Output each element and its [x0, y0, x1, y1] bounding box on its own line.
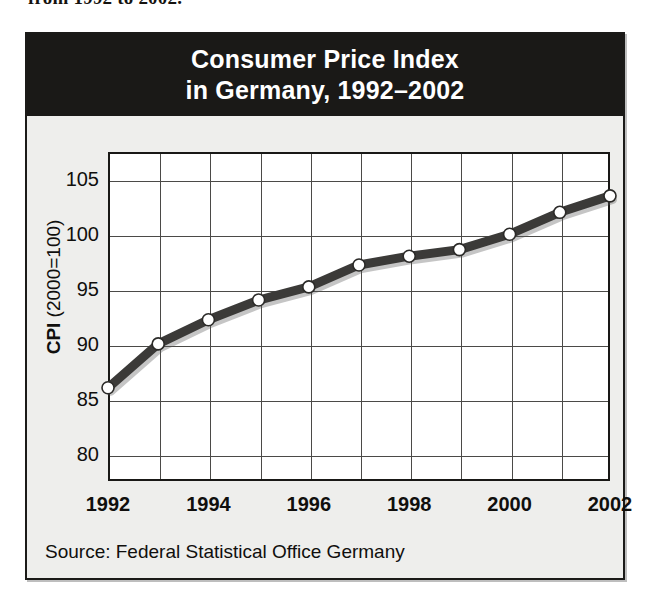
data-point-marker: [202, 314, 214, 326]
y-axis-tick-label: 100: [39, 223, 99, 246]
x-axis-tick-label: 1994: [186, 493, 231, 516]
x-axis-tick-label: 1998: [387, 493, 432, 516]
y-axis-tick-label: 85: [39, 387, 99, 410]
source-strip: Source: Federal Statistical Office Germa…: [27, 526, 623, 578]
data-point-marker: [554, 206, 566, 218]
data-point-marker: [453, 244, 465, 256]
x-axis-tick-label: 1992: [86, 493, 131, 516]
plot-area: CPI (2000=100) 8085909510010519921994199…: [27, 116, 623, 526]
data-point-marker: [253, 294, 265, 306]
series-layer: [108, 152, 610, 481]
data-point-marker: [604, 190, 616, 202]
data-point-marker: [353, 259, 365, 271]
data-point-marker: [102, 382, 114, 394]
data-point-marker: [403, 250, 415, 262]
series-line: [108, 196, 610, 388]
y-axis-tick-label: 105: [39, 168, 99, 191]
x-axis-tick-label: 2000: [487, 493, 532, 516]
page-cutoff-text: from 1992 to 2002.: [28, 0, 182, 9]
chart-title-primary: Consumer Price Index: [191, 44, 459, 75]
data-point-marker: [152, 338, 164, 350]
chart-title-banner: Consumer Price Index in Germany, 1992–20…: [27, 34, 623, 116]
chart-title-secondary: in Germany, 1992–2002: [186, 75, 465, 106]
x-axis-tick-label: 2002: [588, 493, 633, 516]
source-note: Source: Federal Statistical Office Germa…: [45, 541, 405, 563]
y-axis-tick-label: 95: [39, 278, 99, 301]
data-point-marker: [504, 228, 516, 240]
y-axis-tick-label: 90: [39, 332, 99, 355]
x-axis-tick-label: 1996: [287, 493, 332, 516]
y-axis-tick-label: 80: [39, 442, 99, 465]
series-line-shadow: [111, 199, 613, 391]
chart-figure: Consumer Price Index in Germany, 1992–20…: [25, 32, 625, 580]
data-point-marker: [303, 281, 315, 293]
